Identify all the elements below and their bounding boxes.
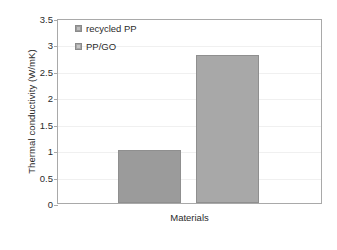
y-axis-tick-labels: 00.511.522.533.5 — [25, 19, 53, 204]
legend-label: PP/GO — [86, 41, 116, 52]
square-swatch-icon — [75, 43, 82, 50]
legend-label: recycled PP — [86, 23, 137, 34]
y-axis-tickmark — [54, 205, 58, 206]
legend-entry: recycled PP — [75, 23, 137, 34]
y-tick-label: 2 — [25, 93, 53, 104]
y-tick-label: 1 — [25, 146, 53, 157]
legend-entry: PP/GO — [75, 41, 137, 52]
bar-pp-go — [196, 55, 259, 203]
y-tick-label: 0 — [25, 199, 53, 210]
chart-legend: recycled PPPP/GO — [75, 23, 137, 52]
y-tick-label: 1.5 — [25, 119, 53, 130]
thermal-conductivity-bar-chart: Thermal conductivity (W/mK) 00.511.522.5… — [0, 0, 337, 250]
y-tick-label: 3.5 — [25, 14, 53, 25]
y-tick-label: 2.5 — [25, 66, 53, 77]
x-axis-title: Materials — [57, 212, 322, 223]
bar-recycled-pp — [118, 150, 181, 203]
square-swatch-icon — [75, 25, 82, 32]
y-tick-label: 3 — [25, 40, 53, 51]
y-tick-label: 0.5 — [25, 172, 53, 183]
